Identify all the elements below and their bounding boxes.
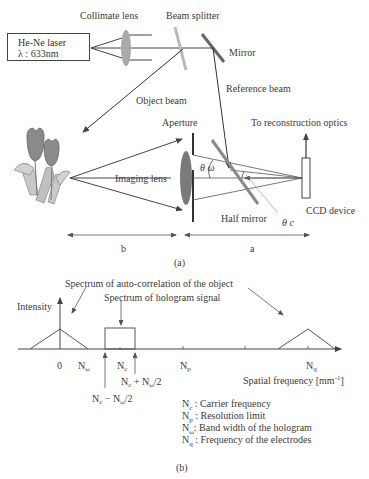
nc-minus-half-bandwidth-label: Nc − Nω/2 xyxy=(92,393,133,408)
tick-n-p-label: Np xyxy=(180,360,191,375)
laser-beams xyxy=(91,35,183,60)
auto-correlation-spectrum-zero xyxy=(30,329,88,349)
ccd-device-icon xyxy=(302,158,310,198)
nc-plus-half-bandwidth-label: Nc + Nω/2 xyxy=(121,376,162,391)
auto-correlation-spectrum-nq xyxy=(278,329,335,349)
collimate-lens-label: Collimate lens xyxy=(80,10,138,21)
theta-omega-label: θ ω xyxy=(200,162,214,173)
spatial-frequency-label: Spatial frequency [mm-1] xyxy=(243,373,344,386)
auto-correlation-label: Spectrum of auto-correlation of the obje… xyxy=(65,278,233,289)
laser-wavelength: λ : 633nm xyxy=(18,48,58,59)
to-reconstruction-optics-label: To reconstruction optics xyxy=(251,117,348,128)
figure-a-caption: (a) xyxy=(174,257,185,268)
ccd-device-label: CCD device xyxy=(306,205,355,216)
tulip-object-icon xyxy=(14,128,70,204)
legend-item-electrode-frequency: Nq : Frequency of the electrodes xyxy=(182,434,311,448)
aperture-label: Aperture xyxy=(162,117,198,128)
dimension-b-label: b xyxy=(121,243,126,254)
theta-c-arc xyxy=(242,172,244,178)
beam-splitter-label: Beam splitter xyxy=(166,10,220,21)
tick-n-omega-label: Nω xyxy=(78,360,90,375)
imaging-lens-label: Imaging lens xyxy=(115,173,167,184)
reference-beam-label: Reference beam xyxy=(226,83,291,94)
mirror-label: Mirror xyxy=(229,47,256,58)
imaging-lens-icon xyxy=(180,151,192,205)
collimate-lens-icon xyxy=(121,30,131,66)
figure-b-caption: (b) xyxy=(176,462,188,473)
laser-name: He-Ne laser xyxy=(18,37,66,48)
theta-c-label: θ c xyxy=(282,217,294,228)
hologram-signal-spectrum xyxy=(105,328,135,349)
intensity-label: Intensity xyxy=(17,301,52,312)
object-beam-label: Object beam xyxy=(136,95,187,106)
tick-zero-label: 0 xyxy=(57,360,62,371)
half-mirror-label: Half mirror xyxy=(221,213,267,224)
he-ne-laser-box: He-Ne laser λ : 633nm xyxy=(7,33,90,61)
tick-n-c-label: Nc xyxy=(117,360,127,375)
hologram-signal-label: Spectrum of hologram signal xyxy=(104,292,220,303)
dimension-a-label: a xyxy=(250,243,254,254)
